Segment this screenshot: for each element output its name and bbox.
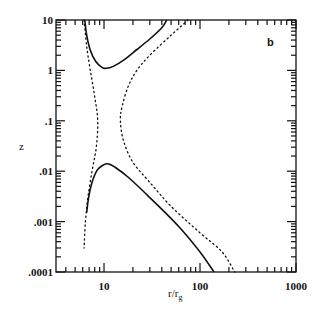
dotted-curve <box>120 20 234 272</box>
y-tick-label: .01 <box>39 165 53 177</box>
y-tick-label: 1 <box>48 64 54 76</box>
solid-curve <box>87 164 214 272</box>
x-axis-label-main: r/r <box>168 287 179 299</box>
x-axis-ticks <box>66 20 296 272</box>
x-tick-label: 1000 <box>285 280 308 292</box>
y-tick-label: .1 <box>45 115 53 127</box>
chart: 101001000 101.1.01.001.0001 b z r/rg <box>0 0 322 313</box>
y-axis-ticks <box>56 20 296 272</box>
x-axis-label-subscript: g <box>178 293 182 302</box>
panel-label: b <box>267 36 274 48</box>
y-tick-label: .001 <box>34 216 53 228</box>
plot-series <box>84 20 235 272</box>
y-axis-label: z <box>19 140 24 152</box>
solid-curve <box>85 20 167 68</box>
x-tick-label: 10 <box>99 280 111 292</box>
plot-frame <box>56 20 296 272</box>
x-axis-tick-labels: 101001000 <box>99 280 308 292</box>
x-axis-label: r/rg <box>168 287 182 302</box>
y-axis-tick-labels: 101.1.01.001.0001 <box>28 14 53 278</box>
y-tick-label: .0001 <box>28 266 53 278</box>
x-tick-label: 100 <box>192 280 209 292</box>
y-tick-label: 10 <box>42 14 54 26</box>
